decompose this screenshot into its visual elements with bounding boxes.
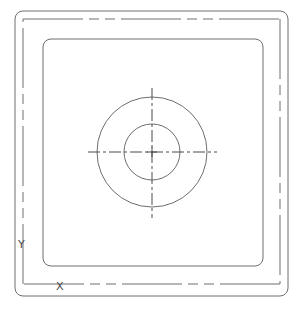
- y-axis-label: Y: [17, 238, 25, 251]
- cad-drawing-canvas[interactable]: Y X: [0, 0, 304, 311]
- x-axis-label: X: [56, 280, 64, 293]
